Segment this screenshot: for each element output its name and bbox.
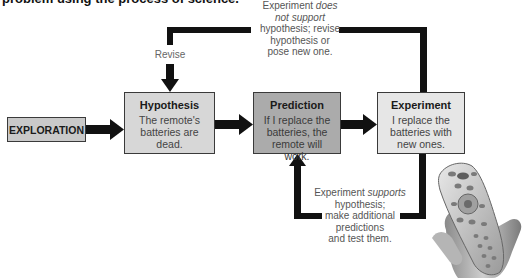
note-text: make additional (312, 210, 408, 222)
note-text: and test them. (312, 233, 408, 245)
note-text: hypothesis; (312, 199, 408, 211)
remote-control-hand-icon (432, 160, 528, 278)
note-text: Experiment (314, 187, 367, 198)
experiment-node: Experiment I replace the batteries with … (377, 92, 465, 154)
note-emphasis: supports (368, 187, 406, 198)
hypothesis-title: Hypothesis (125, 99, 214, 111)
exploration-label: EXPLORATION (9, 124, 84, 136)
exploration-node: EXPLORATION (7, 117, 86, 142)
hypothesis-body: The remote's batteries are dead. (125, 114, 214, 150)
prediction-node: Prediction If I replace the batteries, t… (253, 92, 341, 154)
note-text: predictions (312, 222, 408, 234)
revise-label: Revise (152, 49, 188, 60)
prediction-body: If I replace the batteries, the remote w… (254, 114, 340, 162)
note-text: hypothesis or (248, 35, 352, 47)
note-text: hypothesis; revise (248, 23, 352, 35)
hypothesis-node: Hypothesis The remote's batteries are de… (124, 92, 215, 154)
note-text: Experiment (262, 0, 315, 11)
experiment-title: Experiment (378, 99, 464, 111)
prediction-title: Prediction (254, 99, 340, 111)
note-emphasis: not support (275, 12, 325, 23)
note-emphasis: does (316, 0, 338, 11)
note-text: pose new one. (248, 46, 352, 58)
supports-note: Experiment supports hypothesis; make add… (312, 187, 408, 245)
not-support-note: Experiment does not support hypothesis; … (248, 0, 352, 58)
experiment-body: I replace the batteries with new ones. (378, 114, 464, 150)
